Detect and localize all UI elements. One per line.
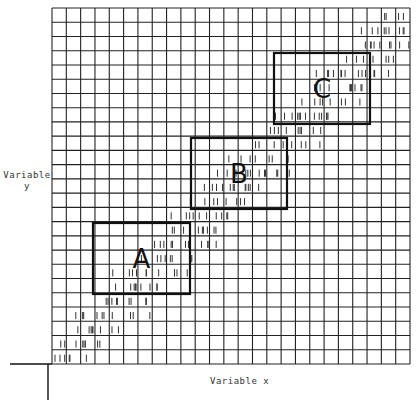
y-axis-label: Variable y bbox=[3, 170, 51, 192]
y-axis-label-line2: y bbox=[3, 181, 51, 192]
region-label-a: A bbox=[133, 244, 151, 274]
region-label-b: B bbox=[230, 159, 248, 189]
grid-canvas: ABC bbox=[0, 0, 420, 410]
x-axis-label: Variable x bbox=[210, 376, 269, 386]
region-label-c: C bbox=[313, 74, 331, 104]
scatter-grid-diagram: ABC Variable y Variable x bbox=[0, 0, 420, 410]
y-axis-label-line1: Variable bbox=[3, 170, 51, 181]
